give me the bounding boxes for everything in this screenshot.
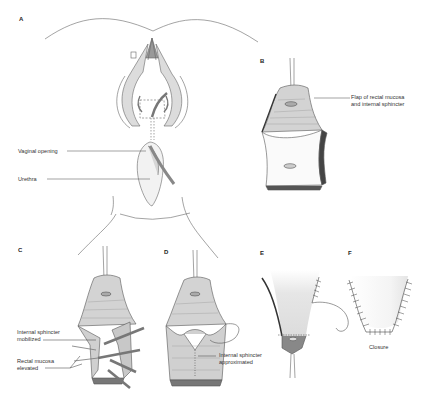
label-flap-line2: and internal sphincter: [351, 101, 405, 108]
panel-label-d: D: [164, 249, 168, 255]
panel-b-drawing: [262, 58, 350, 190]
label-closure: Closure: [369, 344, 388, 351]
panel-f-drawing: [347, 276, 412, 335]
panel-c-drawing: [43, 246, 144, 388]
panel-label-e: E: [260, 250, 264, 256]
label-rectal-mucosa-line1: Rectal mucosa: [17, 358, 54, 365]
label-internal-sphincter-line2: mobilized: [17, 336, 41, 343]
label-rectal-mucosa-line2: elevated: [17, 365, 38, 372]
panel-a-drawing: [45, 19, 258, 258]
panel-label-b: B: [260, 58, 264, 64]
panel-label-f: F: [348, 250, 352, 256]
label-internal-sphincter-line1: Internal sphincter: [17, 329, 60, 336]
label-flap-line1: Flap of rectal mucosa: [351, 94, 404, 101]
panel-d-drawing: [166, 250, 239, 386]
panel-e-drawing: [262, 270, 348, 378]
label-sphincter-approx-line1: Internal sphincter: [219, 352, 262, 359]
label-urethra: Urethra: [18, 176, 37, 183]
label-sphincter-approx-line2: approximated: [219, 359, 253, 366]
label-vaginal-opening: Vaginal opening: [18, 148, 58, 155]
panel-label-a: A: [19, 16, 23, 22]
panel-label-c: C: [18, 247, 22, 253]
surgical-illustration: [0, 0, 424, 395]
